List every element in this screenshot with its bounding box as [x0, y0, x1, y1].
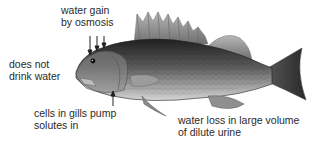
label-water-gain-line1: water gain — [61, 4, 114, 16]
label-gills: cells in gills pump solutes in — [34, 107, 116, 131]
anal-fin — [208, 96, 244, 109]
tail-fin — [268, 48, 306, 100]
label-water-gain: water gain by osmosis — [61, 4, 114, 28]
label-gills-line2: solutes in — [34, 119, 116, 131]
label-urine-line2: of dilute urine — [178, 126, 299, 138]
label-gills-line1: cells in gills pump — [34, 107, 116, 119]
label-no-drink-line1: does not — [9, 58, 60, 70]
gills-arrow — [111, 91, 115, 106]
label-no-drink: does not drink water — [9, 58, 60, 82]
label-urine: water loss in large volume of dilute uri… — [178, 114, 299, 138]
fish-eye — [91, 59, 96, 64]
label-urine-line1: water loss in large volume — [178, 114, 299, 126]
label-water-gain-line2: by osmosis — [61, 16, 114, 28]
label-no-drink-line2: drink water — [9, 70, 60, 82]
